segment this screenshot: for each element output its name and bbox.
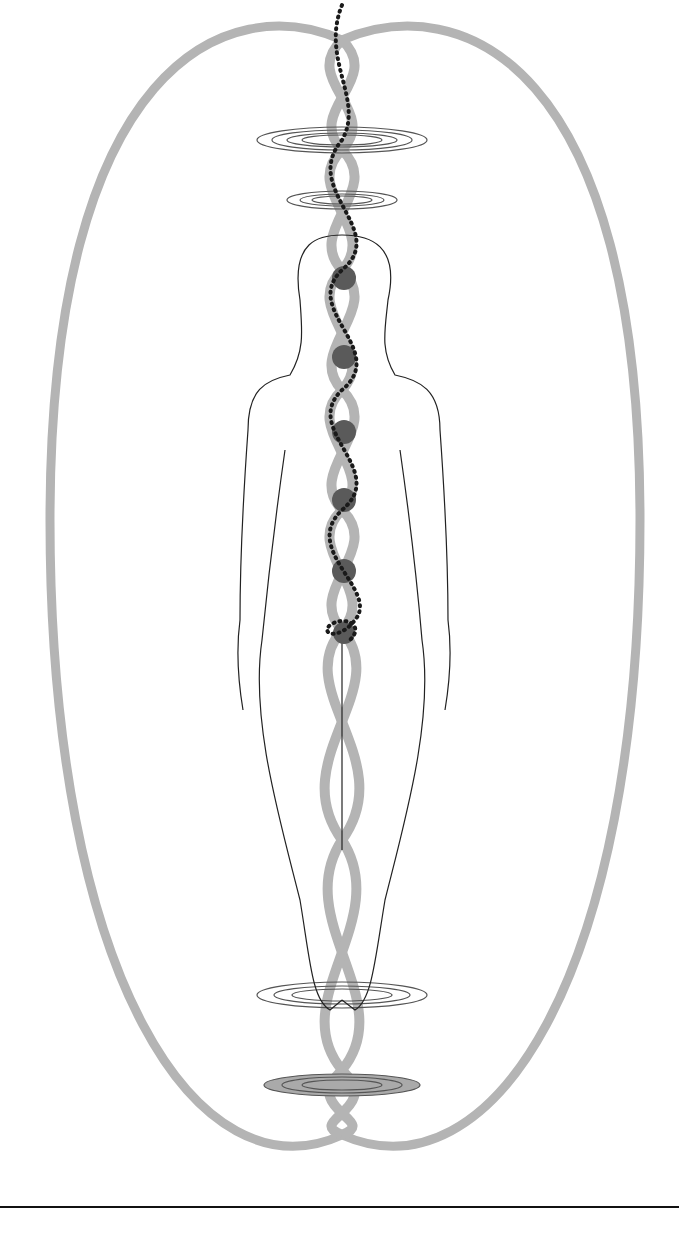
energy-body-illustration xyxy=(0,0,679,1233)
